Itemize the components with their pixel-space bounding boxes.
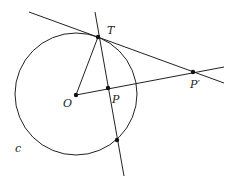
segment-OT (76, 37, 98, 95)
point-secant-intersection (115, 138, 119, 142)
point-P (106, 86, 110, 90)
label-O: O (63, 97, 72, 110)
point-O (74, 93, 78, 97)
line-OP-prime (76, 67, 224, 95)
label-P: P (111, 93, 120, 106)
label-P-prime: P′ (189, 78, 200, 91)
geometry-diagram: T O P P′ c (0, 0, 237, 186)
label-T: T (107, 24, 116, 37)
label-c: c (15, 142, 21, 155)
point-P-prime (191, 70, 195, 74)
point-T (96, 35, 100, 39)
